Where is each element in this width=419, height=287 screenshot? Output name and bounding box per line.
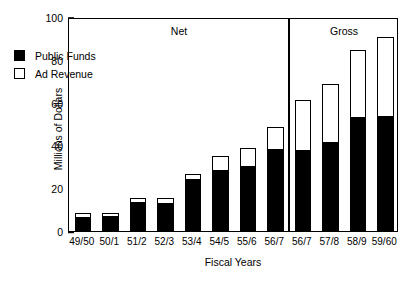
y-axis-tick-label: 0: [23, 226, 63, 238]
y-axis-tick-label: 100: [23, 12, 63, 24]
bar-segment-public-funds[interactable]: [267, 149, 284, 231]
bar-53-4-4[interactable]: [185, 174, 202, 231]
hollow-square-icon: [14, 68, 25, 79]
x-axis-tick-label: 58/9: [347, 236, 366, 247]
bar-56-7-7[interactable]: [267, 127, 284, 231]
x-axis-tick-label: 56/7: [292, 236, 311, 247]
plot-area: Net Gross: [68, 18, 398, 232]
bar-segment-public-funds[interactable]: [377, 116, 394, 231]
bar-segment-public-funds[interactable]: [212, 170, 229, 231]
bar-segment-public-funds[interactable]: [102, 216, 119, 231]
x-axis-tick-label: 57/8: [320, 236, 339, 247]
bar-56-7-8[interactable]: [295, 100, 312, 231]
x-axis-tick-label: 50/1: [100, 236, 119, 247]
bar-51-2-2[interactable]: [130, 198, 147, 231]
x-axis-tick-label: 52/3: [155, 236, 174, 247]
legend-item[interactable]: Public Funds: [14, 48, 96, 63]
y-axis-tick-label: 20: [23, 183, 63, 195]
group-label-gross: Gross: [330, 25, 358, 37]
legend-item-label: Ad Revenue: [35, 68, 93, 80]
bar-segment-public-funds[interactable]: [295, 150, 312, 231]
legend-item-label: Public Funds: [35, 50, 96, 62]
bar-52-3-3[interactable]: [157, 198, 174, 231]
x-axis-tick-label: 53/4: [182, 236, 201, 247]
bar-segment-public-funds[interactable]: [322, 142, 339, 231]
bar-50-1-1[interactable]: [102, 213, 119, 231]
bar-segment-public-funds[interactable]: [350, 117, 367, 231]
bar-segment-public-funds[interactable]: [130, 202, 147, 231]
bar-segment-public-funds[interactable]: [157, 203, 174, 231]
x-axis-tick-label: 55/6: [237, 236, 256, 247]
x-axis-tick-label: 54/5: [210, 236, 229, 247]
bar-segment-public-funds[interactable]: [185, 179, 202, 231]
y-axis-tick-label: 40: [23, 140, 63, 152]
x-axis-tick-label: 51/2: [127, 236, 146, 247]
chart-legend: Public FundsAd Revenue: [14, 48, 96, 84]
bar-59-60-11[interactable]: [377, 37, 394, 231]
bar-54-5-5[interactable]: [212, 156, 229, 231]
bar-49-50-0[interactable]: [75, 213, 92, 231]
legend-item[interactable]: Ad Revenue: [14, 66, 96, 81]
bar-58-9-10[interactable]: [350, 50, 367, 231]
bar-segment-public-funds[interactable]: [240, 166, 257, 231]
group-label-net: Net: [171, 25, 187, 37]
bar-55-6-6[interactable]: [240, 148, 257, 231]
bar-segment-public-funds[interactable]: [75, 217, 92, 231]
y-axis-tick-label: 60: [23, 98, 63, 110]
bar-57-8-9[interactable]: [322, 84, 339, 231]
x-axis-tick-label: 56/7: [265, 236, 284, 247]
filled-square-icon: [14, 50, 25, 61]
chart-figure: Millions of Dollars 020406080100 Net Gro…: [0, 0, 419, 287]
group-divider-line: [288, 19, 290, 231]
x-axis-tick-label: 49/50: [69, 236, 94, 247]
x-axis-tick-label: 59/60: [372, 236, 397, 247]
x-axis-title: Fiscal Years: [68, 256, 398, 268]
